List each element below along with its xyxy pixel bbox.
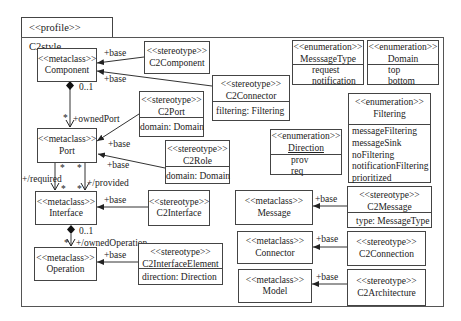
stereotype-label: <<metaclass>> <box>36 197 96 209</box>
stereotype-label: <<stereotype>> <box>166 144 229 156</box>
attribute: direction: Direction <box>142 272 219 284</box>
class-name: Operation <box>35 264 96 276</box>
edge-label: +base <box>104 250 126 261</box>
stereotype-label: <<stereotype>> <box>140 95 203 107</box>
class-name: MesssageType <box>293 54 363 66</box>
enum-literal: messageSink <box>352 138 427 150</box>
class-name: Direction <box>271 143 341 155</box>
stereotype-c2message[interactable]: <<stereotype>>C2Message type: MessageTyp… <box>347 186 432 228</box>
stereotype-label: <<metaclass>> <box>238 236 312 248</box>
edge-label: +base <box>104 48 126 59</box>
stereotype-label: <<stereotype>> <box>348 276 425 288</box>
class-name: C2Component <box>145 58 209 70</box>
class-name: C2Connection <box>348 249 425 261</box>
class-name: Port <box>38 146 96 158</box>
stereotype-c2architecture[interactable]: <<stereotype>>C2Architecture <box>347 269 426 306</box>
multiplicity-label: * <box>63 113 68 124</box>
attribute: filtering: Filtering <box>216 106 286 118</box>
enum-literal: notification <box>312 76 360 87</box>
composition-diamond-icon <box>67 225 75 234</box>
composition-diamond-icon <box>66 81 74 90</box>
stereotype-label: <<metaclass>> <box>239 275 311 287</box>
edge-label: +base <box>108 139 130 150</box>
class-name: Connector <box>238 248 312 260</box>
metaclass-port[interactable]: <<metaclass>>Port <box>37 128 97 163</box>
enum-literal: notificationFiltering <box>352 161 427 173</box>
metaclass-interface[interactable]: <<metaclass>>Interface <box>35 191 97 225</box>
enumeration-direction[interactable]: <<enumeration>>Direction prov req <box>270 129 342 175</box>
metaclass-operation[interactable]: <<metaclass>>Operation <box>34 247 97 281</box>
stereotype-label: <<enumeration>> <box>368 42 438 54</box>
metaclass-connector[interactable]: <<metaclass>>Connector <box>237 231 313 264</box>
stereotype-c2port[interactable]: <<stereotype>>C2Port domain: Domain <box>139 91 204 137</box>
edge-label: +base <box>316 234 338 245</box>
enum-literal: noFiltering <box>352 150 427 162</box>
enum-literal: bottom <box>388 76 435 87</box>
edge-label: +base <box>104 195 126 206</box>
stereotype-c2role[interactable]: <<stereotype>>C2Role domain: Domain <box>165 140 230 184</box>
stereotype-label: <<metaclass>> <box>236 196 312 208</box>
class-name: Model <box>239 286 311 298</box>
role-label: +/required <box>22 174 62 185</box>
edge-label: +base <box>315 194 337 205</box>
edge-label: +base <box>316 272 338 283</box>
attribute: domain: Domain <box>140 122 200 134</box>
stereotype-label: <<metaclass>> <box>38 54 96 66</box>
role-label: +ownedPort <box>73 114 120 125</box>
enum-literal: messageFiltering <box>352 126 427 138</box>
class-name: Component <box>38 65 96 77</box>
stereotype-c2interfaceelement[interactable]: <<stereotype>>C2InterfaceElement directi… <box>138 243 223 285</box>
stereotype-label: <<stereotype>> <box>213 79 289 91</box>
multiplicity-label: * <box>60 163 65 174</box>
stereotype-c2connector[interactable]: <<stereotype>>C2Connector filtering: Fil… <box>212 75 290 121</box>
enumeration-filtering[interactable]: <<enumeration>>Filtering messageFilterin… <box>348 93 431 183</box>
stereotype-label: <<stereotype>> <box>149 197 209 209</box>
enumeration-messagetype[interactable]: <<enumeration>>MesssageType request noti… <box>292 40 364 85</box>
edge-label: +base <box>107 160 129 171</box>
metaclass-message[interactable]: <<metaclass>>Message <box>235 190 313 225</box>
stereotype-label: <<metaclass>> <box>35 253 96 265</box>
stereotype-label: <<stereotype>> <box>348 190 431 202</box>
stereotype-label: <<metaclass>> <box>38 134 96 146</box>
class-name: C2Architecture <box>348 288 425 300</box>
class-name: Message <box>236 208 312 220</box>
enum-literal: prov <box>291 155 338 166</box>
enum-literal: req <box>291 166 338 177</box>
multiplicity-label: 0..1 <box>79 82 93 93</box>
multiplicity-label: * <box>77 163 82 174</box>
enum-literal: request <box>312 65 360 76</box>
class-name: C2Interface <box>149 208 209 220</box>
enum-literal: top <box>388 65 435 76</box>
metaclass-component[interactable]: <<metaclass>>Component <box>37 48 97 82</box>
attribute: domain: Domain <box>166 171 226 183</box>
stereotype-label: <<enumeration>> <box>271 131 341 143</box>
class-name: C2InterfaceElement <box>139 259 222 271</box>
stereotype-c2interface[interactable]: <<stereotype>>C2Interface <box>148 190 210 226</box>
stereotype-label: <<stereotype>> <box>348 237 425 249</box>
stereotype-c2connection[interactable]: <<stereotype>>C2Connection <box>347 231 426 266</box>
stereotype-c2component[interactable]: <<stereotype>>C2Component <box>144 41 210 74</box>
enum-literal: prioritized <box>352 173 427 185</box>
stereotype-label: <<stereotype>> <box>145 46 209 58</box>
class-name: Interface <box>36 208 96 220</box>
stereotype-label: <<enumeration>> <box>349 97 430 109</box>
stereotype-label: <<stereotype>> <box>139 247 222 259</box>
class-name: Filtering <box>349 109 430 121</box>
multiplicity-label: 0..1 <box>79 226 93 237</box>
attribute: type: MessageType <box>356 216 428 228</box>
role-label: +/provided <box>87 178 129 189</box>
metaclass-model[interactable]: <<metaclass>>Model <box>238 269 312 303</box>
stereotype-label: <<enumeration>> <box>293 42 363 54</box>
enumeration-domain[interactable]: <<enumeration>>Domain top bottom <box>367 40 439 85</box>
edge-label: +base <box>104 74 126 85</box>
